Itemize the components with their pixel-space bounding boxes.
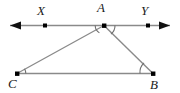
label-y: Y [141,4,148,17]
label-b: B [150,78,158,91]
geometry-figure: X A Y C B [0,0,180,93]
label-x: X [37,4,45,17]
segment-ac [17,26,104,74]
point-y-dot [146,24,150,28]
arrowhead-right-icon [159,22,170,30]
point-a-dot [102,24,106,28]
point-b-dot [151,72,155,76]
label-c: C [8,77,17,90]
segment-ab [104,26,153,74]
label-a: A [97,1,105,14]
point-x-dot [43,24,47,28]
arrowhead-left-icon [10,22,21,30]
angle-yab-arc [111,26,115,35]
